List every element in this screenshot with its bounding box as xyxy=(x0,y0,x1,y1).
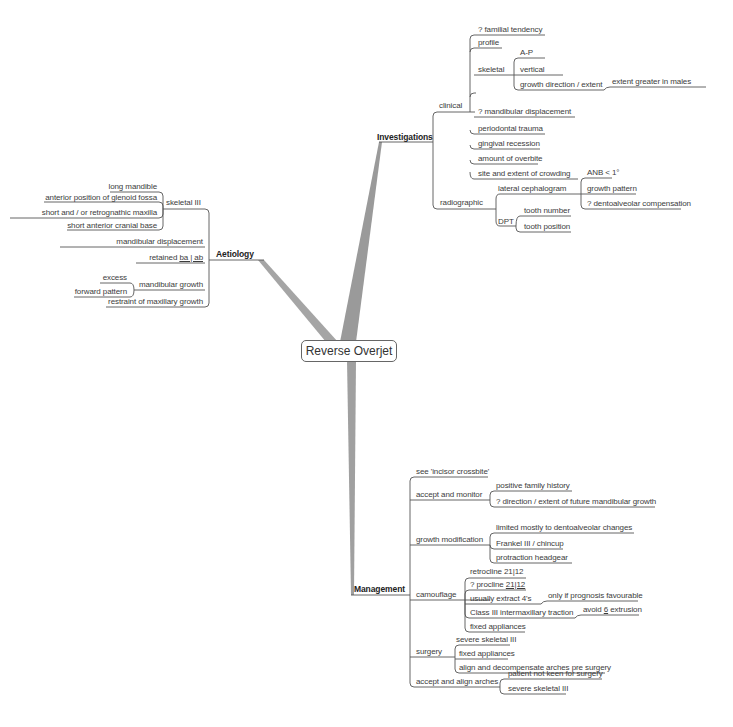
node-lateral-cephalogram[interactable]: lateral cephalogram xyxy=(498,184,566,194)
node-mandibular-displacement[interactable]: ? mandibular displacement xyxy=(478,107,571,117)
node-growth-direction-extent[interactable]: growth direction / extent xyxy=(520,80,602,90)
node-a-p[interactable]: A-P xyxy=(520,48,533,58)
node-mandibular-growth[interactable]: mandibular growth xyxy=(139,280,203,290)
node-severe-skeletal-surgery[interactable]: severe skeletal III xyxy=(456,635,516,645)
node-dentoalveolar-compensation[interactable]: ? dentoalveolar compensation xyxy=(587,199,691,209)
node-glenoid-fossa[interactable]: anterior position of glenoid fossa xyxy=(45,193,157,203)
node-surgery[interactable]: surgery xyxy=(416,647,442,657)
mind-map: Reverse Overjet Investigations clinical … xyxy=(0,0,733,727)
node-forward-pattern[interactable]: forward pattern xyxy=(75,287,127,297)
node-procline[interactable]: ? procline 21|12 xyxy=(470,580,525,590)
node-excess[interactable]: excess xyxy=(103,273,127,283)
node-accept-monitor[interactable]: accept and monitor xyxy=(416,490,482,500)
node-tooth-position[interactable]: tooth position xyxy=(524,222,570,232)
trunk-investigations xyxy=(340,142,382,342)
node-fixed-appliances-surgery[interactable]: fixed appliances xyxy=(459,649,515,659)
node-fixed-appliances-camo[interactable]: fixed appliances xyxy=(470,622,526,632)
procline-teeth-notation: 21|12 xyxy=(506,580,525,589)
node-usually-extract[interactable]: usually extract 4's xyxy=(470,594,531,604)
trunk-management xyxy=(347,360,356,595)
root-node[interactable]: Reverse Overjet xyxy=(301,340,397,362)
avoid-prefix: avoid xyxy=(583,605,604,614)
node-retained-teeth[interactable]: retained ba | ab xyxy=(149,253,203,263)
node-retrocline[interactable]: retrocline 21|12 xyxy=(470,567,523,577)
node-class-iii-traction[interactable]: Class III intermaxillary traction xyxy=(470,608,573,618)
node-patient-not-keen[interactable]: patient not keen for surgery xyxy=(508,669,603,679)
node-protraction-headgear[interactable]: protraction headgear xyxy=(496,553,568,563)
node-skeletal[interactable]: skeletal xyxy=(478,65,504,75)
procline-prefix: ? procline xyxy=(470,580,506,589)
node-tooth-number[interactable]: tooth number xyxy=(524,206,570,216)
branch-investigations[interactable]: Investigations xyxy=(377,132,433,142)
node-restraint-maxillary[interactable]: restraint of maxillary growth xyxy=(108,297,203,307)
branch-aetiology[interactable]: Aetiology xyxy=(216,249,254,259)
connector-lines xyxy=(0,0,733,727)
retained-prefix: retained xyxy=(149,253,179,262)
node-retrognathic-maxilla[interactable]: short and / or retrognathic maxilla xyxy=(42,208,157,218)
node-site-extent-crowding[interactable]: site and extent of crowding xyxy=(478,169,570,179)
branch-management[interactable]: Management xyxy=(354,584,405,594)
node-anb[interactable]: ANB < 1° xyxy=(587,168,619,178)
node-short-cranial-base[interactable]: short anterior cranial base xyxy=(67,221,157,231)
node-extent-greater-males[interactable]: extent greater in males xyxy=(612,77,691,87)
node-gingival-recession[interactable]: gingival recession xyxy=(478,139,540,149)
node-clinical[interactable]: clinical xyxy=(439,101,462,111)
node-accept-align-arches[interactable]: accept and align arches xyxy=(416,677,498,687)
retained-teeth-notation: ba | ab xyxy=(179,253,203,262)
node-future-mandibular-growth[interactable]: ? direction / extent of future mandibula… xyxy=(496,497,656,507)
node-dentoalveolar-changes[interactable]: limited mostly to dentoalveolar changes xyxy=(496,523,632,533)
node-vertical[interactable]: vertical xyxy=(520,65,545,75)
node-mandibular-displacement-aet[interactable]: mandibular displacement xyxy=(116,237,203,247)
node-growth-pattern[interactable]: growth pattern xyxy=(587,184,637,194)
node-periodontal-trauma[interactable]: periodontal trauma xyxy=(478,124,543,134)
node-severe-skeletal-accept[interactable]: severe skeletal III xyxy=(508,684,568,694)
node-prognosis-favourable[interactable]: only if prognosis favourable xyxy=(548,591,643,601)
node-familial-tendency[interactable]: ? familial tendency xyxy=(478,25,542,35)
avoid-suffix: extrusion xyxy=(608,605,642,614)
node-radiographic[interactable]: radiographic xyxy=(440,198,483,208)
node-amount-of-overbite[interactable]: amount of overbite xyxy=(478,154,542,164)
node-dpt[interactable]: DPT xyxy=(498,217,514,227)
node-avoid-extrusion[interactable]: avoid 6 extrusion xyxy=(583,605,642,615)
node-growth-modification[interactable]: growth modification xyxy=(416,535,483,545)
node-positive-family-history[interactable]: positive family history xyxy=(496,481,570,491)
trunk-aetiology xyxy=(258,260,338,342)
node-camouflage[interactable]: camouflage xyxy=(416,590,456,600)
node-long-mandible[interactable]: long mandible xyxy=(108,182,157,192)
node-frankel-chincup[interactable]: Frankel III / chincup xyxy=(496,539,564,549)
node-skeletal-iii[interactable]: skeletal III xyxy=(166,198,201,208)
node-see-incisor-crossbite[interactable]: see 'incisor crossbite' xyxy=(416,467,489,477)
node-profile[interactable]: profile xyxy=(478,38,499,48)
